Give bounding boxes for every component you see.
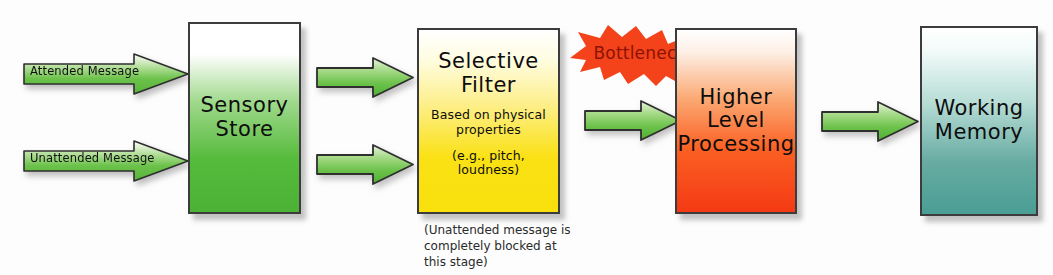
stage-selective-filter-detail-1: Based on physical properties [431, 108, 546, 138]
connector-filter-to-higher [583, 99, 683, 142]
stage-working-memory: Working Memory [920, 26, 1038, 216]
right-arrow-icon [315, 143, 415, 186]
diagram-canvas: Attended Message Unattended Message Sens… [0, 0, 1053, 275]
stage-sensory-store-title: Sensory Store [201, 94, 289, 141]
input-arrow-attended-label: Attended Message [30, 64, 139, 78]
stage-sensory-store: Sensory Store [188, 22, 301, 214]
input-arrow-attended: Attended Message [22, 52, 190, 96]
input-arrow-unattended-label: Unattended Message [30, 151, 155, 165]
stage-selective-filter: Selective Filter Based on physical prope… [417, 28, 560, 214]
stage-selective-filter-title: Selective Filter [438, 50, 538, 97]
stage-higher-level-processing-title: Higher Level Processing [677, 86, 794, 157]
connector-store-to-filter-bottom [315, 143, 415, 186]
right-arrow-icon [583, 99, 683, 142]
input-arrow-unattended: Unattended Message [22, 139, 190, 183]
connector-store-to-filter-top [315, 56, 415, 99]
connector-higher-to-working [820, 100, 920, 143]
right-arrow-icon [315, 56, 415, 99]
right-arrow-icon [820, 100, 920, 143]
selective-filter-caption: (Unattended message is completely blocke… [424, 222, 614, 271]
stage-higher-level-processing: Higher Level Processing [675, 28, 797, 214]
stage-working-memory-title: Working Memory [934, 97, 1023, 144]
stage-selective-filter-detail-2: (e.g., pitch, loudness) [452, 149, 525, 179]
